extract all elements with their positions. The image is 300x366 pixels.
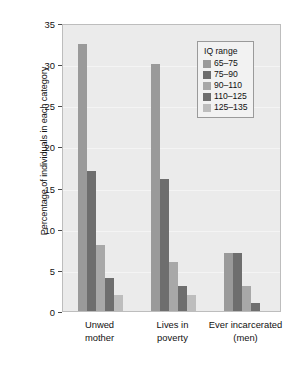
x-axis-category-label: Ever incarcerated(men) xyxy=(209,319,282,344)
bar xyxy=(251,303,260,311)
y-axis-tick-label: 0 xyxy=(50,307,55,318)
bar xyxy=(114,295,123,311)
bar xyxy=(187,295,196,311)
bar xyxy=(224,253,233,311)
x-axis-label-line: mother xyxy=(85,332,114,345)
bar xyxy=(151,64,160,311)
legend[interactable]: IQ range 65–7575–9090–110110–125125–135 xyxy=(197,41,254,118)
legend-title: IQ range xyxy=(203,46,247,56)
bar-chart-figure: Percentage of individuals in each catego… xyxy=(0,0,300,366)
legend-item-label: 65–75 xyxy=(214,59,238,68)
legend-swatch-icon xyxy=(203,104,211,112)
legend-item[interactable]: 65–75 xyxy=(203,58,247,69)
bar xyxy=(178,286,187,311)
gridline xyxy=(63,148,280,149)
legend-swatch-icon xyxy=(203,93,211,101)
legend-swatch-icon xyxy=(203,71,211,79)
y-axis-tick-label: 35 xyxy=(45,19,55,30)
x-axis-label-line: Unwed xyxy=(85,319,114,332)
y-axis-tick-label: 20 xyxy=(45,142,55,153)
x-axis-category-label: Lives inpoverty xyxy=(157,319,189,344)
bar xyxy=(78,44,87,311)
legend-item[interactable]: 90–110 xyxy=(203,80,247,91)
legend-item-label: 125–135 xyxy=(214,103,247,112)
bar xyxy=(169,262,178,311)
y-axis: 05101520253035 xyxy=(0,0,62,366)
x-axis-category-label: Unwedmother xyxy=(85,319,114,344)
legend-swatch-icon xyxy=(203,60,211,68)
x-axis-label-line: Lives in xyxy=(157,319,189,332)
y-axis-tick-label: 15 xyxy=(45,183,55,194)
legend-item-label: 75–90 xyxy=(214,70,238,79)
y-axis-tick-label: 25 xyxy=(45,101,55,112)
y-axis-tick-label: 5 xyxy=(50,265,55,276)
legend-swatch-icon xyxy=(203,82,211,90)
bar xyxy=(233,253,242,311)
bar xyxy=(105,278,114,311)
legend-item[interactable]: 75–90 xyxy=(203,69,247,80)
y-axis-tick-mark xyxy=(58,312,62,313)
x-axis-label-line: poverty xyxy=(157,332,189,345)
legend-item-label: 110–125 xyxy=(214,92,247,101)
legend-entries: 65–7575–9090–110110–125125–135 xyxy=(203,58,247,113)
y-axis-tick-label: 30 xyxy=(45,60,55,71)
x-axis-label-line: (men) xyxy=(209,332,282,345)
bar xyxy=(160,179,169,311)
y-axis-tick-label: 10 xyxy=(45,224,55,235)
bar xyxy=(242,286,251,311)
legend-item[interactable]: 110–125 xyxy=(203,91,247,102)
legend-item[interactable]: 125–135 xyxy=(203,102,247,113)
x-axis-label-line: Ever incarcerated xyxy=(209,319,282,332)
bar xyxy=(96,245,105,311)
bar xyxy=(87,171,96,311)
legend-item-label: 90–110 xyxy=(214,81,242,90)
